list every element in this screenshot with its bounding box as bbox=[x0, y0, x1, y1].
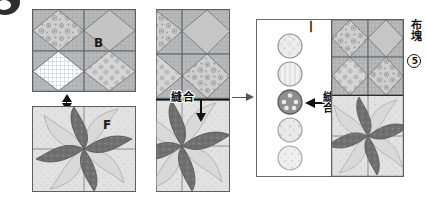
yoyo-circle-stack bbox=[269, 33, 313, 183]
figure-canvas: B bbox=[0, 0, 426, 201]
block-f-pinwheel bbox=[32, 106, 136, 192]
transition-arrow-right bbox=[232, 93, 254, 103]
step-marker-icon bbox=[0, 0, 20, 15]
strip-label: 丨 bbox=[305, 21, 317, 33]
fabric-piece-number: 5 bbox=[407, 54, 421, 68]
block-b-kaleidoscope bbox=[32, 9, 136, 92]
panel-middle: 縫合 bbox=[156, 9, 230, 192]
block-b-label: B bbox=[94, 37, 103, 49]
block-f-label: F bbox=[103, 119, 111, 131]
seam-label-middle: 縫合 bbox=[171, 88, 195, 104]
fabric-piece-caption: 布塊 5 bbox=[407, 19, 421, 68]
fabric-piece-label: 布塊 bbox=[409, 19, 422, 41]
block-f-joined bbox=[156, 100, 230, 192]
panel-left: B bbox=[32, 9, 136, 192]
panel-right: 丨 bbox=[256, 19, 404, 177]
seam-arrow-down bbox=[195, 100, 207, 122]
block-b-joined bbox=[156, 9, 230, 99]
block-pieced-joined bbox=[331, 19, 404, 177]
